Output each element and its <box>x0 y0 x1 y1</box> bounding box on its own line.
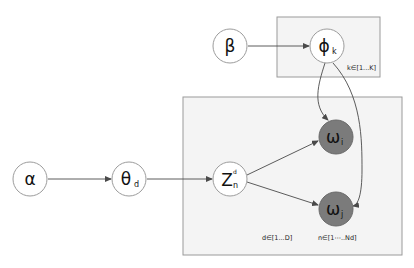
omega-j-symbol: ω <box>326 199 340 219</box>
node-beta: β <box>213 29 247 63</box>
graphical-model-diagram: d∈[1...D] n∈[1⋯..Nd] k∈[1...K] α θ d Z d… <box>0 0 414 268</box>
topic-plate-label: k∈[1...K] <box>347 64 376 72</box>
phi-subscript: k <box>332 47 337 56</box>
omega-i-subscript: i <box>341 138 343 147</box>
phi-symbol: ϕ <box>318 36 329 56</box>
word-plate-label: n∈[1⋯..Nd] <box>318 234 357 242</box>
z-symbol: Z <box>221 170 233 190</box>
alpha-symbol: α <box>24 169 35 189</box>
theta-subscript: d <box>134 180 139 189</box>
omega-j-subscript: j <box>340 210 343 219</box>
node-omega-j: ω j <box>319 192 353 226</box>
theta-symbol: θ <box>121 169 131 189</box>
node-theta: θ d <box>112 162 146 196</box>
node-omega-i: ω i <box>319 120 353 154</box>
node-z: Z d n <box>213 162 247 196</box>
z-superscript: d <box>233 168 237 175</box>
document-plate-label: d∈[1...D] <box>262 234 292 242</box>
beta-symbol: β <box>225 36 236 56</box>
omega-i-symbol: ω <box>326 127 340 147</box>
node-phi: ϕ k <box>310 29 344 63</box>
node-alpha: α <box>13 162 47 196</box>
z-subscript: n <box>233 181 238 190</box>
